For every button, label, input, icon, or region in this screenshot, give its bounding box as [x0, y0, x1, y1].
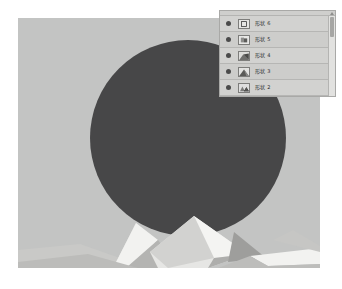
layer-row[interactable]: 形状 3	[220, 64, 328, 80]
layer-visibility-toggle[interactable]	[222, 85, 235, 90]
shape-thumb-icon	[238, 67, 250, 77]
layer-thumbnail[interactable]	[235, 67, 252, 77]
eye-icon[interactable]	[226, 85, 231, 90]
layer-name-label: 形状 5	[252, 37, 271, 42]
eye-icon[interactable]	[226, 53, 231, 58]
layer-row[interactable]: 形状 4	[220, 48, 328, 64]
shape-thumb-icon	[238, 83, 250, 93]
layer-name-label: 形状 6	[252, 21, 271, 26]
layer-thumbnail[interactable]	[235, 83, 252, 93]
thumb-art	[239, 20, 249, 28]
layer-row[interactable]: 形状 6	[220, 16, 328, 32]
shape-thumb-icon	[238, 35, 250, 45]
thumb-art	[239, 52, 249, 60]
eye-icon[interactable]	[226, 37, 231, 42]
triangle-up-icon[interactable]	[330, 12, 334, 15]
layer-name-label: 形状 3	[252, 69, 271, 74]
layer-name-label: 形状 4	[252, 53, 271, 58]
layer-row[interactable]: 形状 2	[220, 80, 328, 96]
eye-icon[interactable]	[226, 21, 231, 26]
layer-thumbnail[interactable]	[235, 51, 252, 61]
layer-thumbnail[interactable]	[235, 35, 252, 45]
thumb-art	[239, 68, 249, 76]
layer-visibility-toggle[interactable]	[222, 37, 235, 42]
panel-scrollbar[interactable]	[328, 16, 335, 96]
eye-icon[interactable]	[226, 69, 231, 74]
thumb-art	[239, 36, 249, 44]
layer-thumbnail[interactable]	[235, 19, 252, 29]
application-window: 形状 6 形状 5	[0, 0, 342, 289]
layer-list[interactable]: 形状 6 形状 5	[220, 16, 328, 96]
layer-name-label: 形状 2	[252, 85, 271, 90]
layer-visibility-toggle[interactable]	[222, 21, 235, 26]
thumb-art	[239, 84, 249, 92]
layer-visibility-toggle[interactable]	[222, 53, 235, 58]
shape-thumb-icon	[238, 51, 250, 61]
layer-row[interactable]: 形状 5	[220, 32, 328, 48]
scrollbar-thumb[interactable]	[330, 17, 334, 37]
square-outline-thumb-icon	[238, 19, 250, 29]
layers-panel[interactable]: 形状 6 形状 5	[219, 10, 336, 97]
layer-visibility-toggle[interactable]	[222, 69, 235, 74]
